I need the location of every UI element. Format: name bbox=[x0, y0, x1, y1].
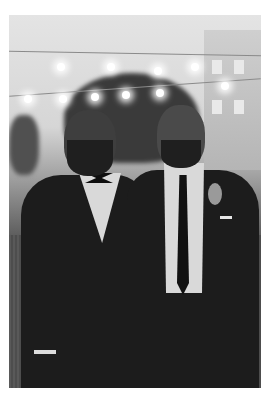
light-bulb bbox=[57, 63, 65, 71]
pocket-square bbox=[220, 216, 232, 219]
boutonniere bbox=[208, 183, 222, 205]
light-bulb bbox=[154, 67, 162, 75]
left-man-cuff bbox=[34, 350, 56, 354]
light-bulb bbox=[156, 89, 164, 97]
building bbox=[204, 30, 261, 170]
photo bbox=[9, 15, 261, 388]
light-bulb bbox=[24, 95, 32, 103]
left-man-beard bbox=[67, 140, 113, 176]
light-bulb bbox=[191, 63, 199, 71]
right-man-beard bbox=[161, 140, 201, 168]
light-bulb bbox=[59, 95, 67, 103]
light-bulb bbox=[221, 82, 229, 90]
light-bulb bbox=[107, 63, 115, 71]
tree-left bbox=[9, 115, 39, 175]
light-bulb bbox=[122, 91, 130, 99]
light-bulb bbox=[91, 93, 99, 101]
